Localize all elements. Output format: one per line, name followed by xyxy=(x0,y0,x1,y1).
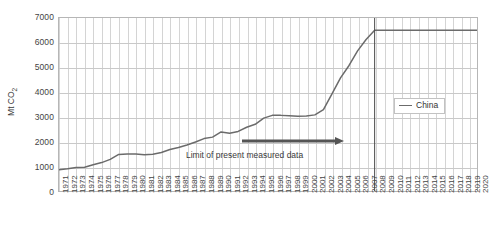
limit-annotation-label: Limit of present measured data xyxy=(186,150,303,160)
x-tick-label: 2006 xyxy=(361,175,370,193)
x-tick-label: 1985 xyxy=(181,175,190,193)
x-tick-label: 1983 xyxy=(164,175,173,193)
x-tick-label: 1978 xyxy=(121,175,130,193)
chart-legend: China xyxy=(394,98,445,114)
x-axis: 1971197219731974197519761977197819791980… xyxy=(58,193,478,237)
y-tick-label: 7000 xyxy=(35,12,54,22)
y-tick-label: 5000 xyxy=(35,62,54,72)
y-axis: Mt CO2 01000200030004000500060007000 xyxy=(0,0,58,237)
x-tick-label: 2013 xyxy=(421,175,430,193)
x-tick-label: 1997 xyxy=(284,175,293,193)
x-tick-label: 1999 xyxy=(301,175,310,193)
x-tick-label: 1990 xyxy=(224,175,233,193)
y-tick-label: 1000 xyxy=(35,162,54,172)
x-tick-label: 1971 xyxy=(61,175,70,193)
x-tick-label: 2020 xyxy=(481,175,489,193)
x-tick-label: 1981 xyxy=(147,175,156,193)
x-tick-label: 2002 xyxy=(327,175,336,193)
x-tick-label: 1976 xyxy=(104,175,113,193)
legend-label-china: China xyxy=(416,101,438,110)
legend-swatch-china xyxy=(399,105,412,106)
y-tick-label: 3000 xyxy=(35,112,54,122)
x-tick-label: 1995 xyxy=(267,175,276,193)
y-tick-label: 2000 xyxy=(35,137,54,147)
y-tick-label: 4000 xyxy=(35,87,54,97)
y-axis-title: Mt CO2 xyxy=(6,72,18,132)
limit-arrow-icon xyxy=(240,134,346,148)
y-tick-label: 0 xyxy=(49,187,54,197)
x-tick-label: 2018 xyxy=(464,175,473,193)
x-tick-label: 1992 xyxy=(241,175,250,193)
x-tick-label: 2009 xyxy=(387,175,396,193)
y-tick-label: 6000 xyxy=(35,37,54,47)
x-tick-label: 2004 xyxy=(344,175,353,193)
x-tick-label: 1974 xyxy=(87,175,96,193)
x-tick-label: 2016 xyxy=(447,175,456,193)
x-tick-label: 1988 xyxy=(207,175,216,193)
chart-container: Mt CO2 01000200030004000500060007000 197… xyxy=(0,0,489,237)
x-tick-label: 2011 xyxy=(404,176,413,193)
